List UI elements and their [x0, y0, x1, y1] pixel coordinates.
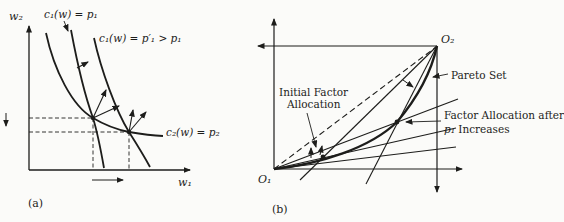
panel-a: w₂ w₁ c₁(w) = p₁ c₁(w) = p′₁ > p₁ c₂(w) … [6, 8, 220, 210]
initial-allocation-point [321, 155, 326, 160]
o2-line-through-initial [300, 46, 437, 180]
o1-ray-shallow [274, 147, 456, 169]
origin-2-label: O₂ [441, 33, 454, 46]
o2-line-through-after [366, 46, 437, 184]
c1-initial-curve [71, 30, 104, 168]
initial-allocation-leader [307, 113, 316, 147]
panel-a-caption: (a) [28, 197, 43, 210]
c2-curve [46, 33, 163, 136]
after-allocation-leader [406, 121, 441, 122]
after-allocation-point [395, 120, 400, 125]
c2-label: c₂(w) = p₂ [166, 126, 220, 138]
w1-axis-label: w₁ [178, 176, 192, 189]
initial-allocation-label-line2: Allocation [286, 98, 341, 110]
c1-after-label: c₁(w) = p′₁ > p₁ [99, 32, 181, 44]
after-allocation-label-math: p₁ [444, 123, 455, 135]
panel-b: O₁ O₂ Pareto Set Initial Factor Allocati… [258, 19, 564, 216]
figure-canvas: w₂ w₁ c₁(w) = p₁ c₁(w) = p′₁ > p₁ c₂(w) … [0, 0, 564, 222]
textbook-figure: w₂ w₁ c₁(w) = p₁ c₁(w) = p′₁ > p₁ c₂(w) … [0, 0, 564, 222]
w2-axis-label: w₂ [9, 10, 23, 23]
after-allocation-label-rest: Increases [455, 123, 510, 135]
initial-allocation-label-line1: Initial Factor [279, 86, 349, 98]
gradient-arrow-initial-2 [93, 106, 119, 118]
c1-initial-leader [64, 21, 68, 31]
pareto-leader [433, 74, 448, 77]
pareto-set-label: Pareto Set [451, 69, 507, 81]
gradient-arrow-initial-1 [93, 90, 106, 118]
c1-after-curve [94, 38, 150, 167]
after-allocation-label-line1: Factor Allocation after [444, 109, 564, 121]
rotation-arrow-near-o2 [403, 80, 413, 87]
panel-b-caption: (b) [272, 203, 288, 216]
after-allocation-label-line2: p₁ Increases [444, 123, 510, 135]
origin-1-label: O₁ [258, 173, 271, 186]
c1-initial-label: c₁(w) = p₁ [44, 8, 98, 20]
